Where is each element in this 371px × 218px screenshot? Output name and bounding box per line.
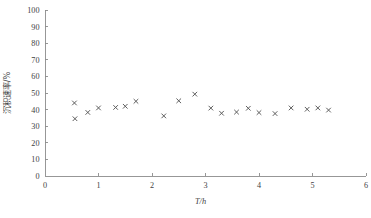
data-point — [96, 106, 101, 111]
y-axis-tick-label-20: 20 — [31, 139, 39, 148]
data-point — [316, 106, 321, 111]
data-point — [123, 104, 128, 109]
data-point — [86, 110, 91, 115]
x-axis-tick-label-4: 4 — [257, 181, 261, 190]
data-point — [134, 99, 139, 104]
y-axis-tick-label-30: 30 — [31, 122, 39, 131]
y-axis-tick-label-70: 70 — [31, 56, 39, 65]
y-axis-tick-label-100: 100 — [27, 6, 39, 15]
y-axis-tick-label-0: 0 — [35, 172, 39, 181]
y-axis-tick-label-50: 50 — [31, 89, 39, 98]
scatter-plot-svg: 0102030405060708090100 0123456 T/h沉积速率/% — [0, 0, 371, 218]
x-axis-title: T/h — [195, 197, 206, 206]
data-point-markers — [72, 92, 331, 121]
x-axis-tick-label-0: 0 — [43, 181, 47, 190]
x-axis-tick-label-3: 3 — [203, 181, 207, 190]
y-axis-tick-label-80: 80 — [31, 39, 39, 48]
y-axis-title: 沉积速率/% — [2, 72, 12, 115]
data-point — [209, 106, 214, 111]
data-point — [234, 110, 239, 115]
chart-figure: 0102030405060708090100 0123456 T/h沉积速率/% — [0, 0, 371, 218]
y-axis-tick-label-90: 90 — [31, 23, 39, 32]
data-point — [326, 108, 331, 113]
data-point — [72, 101, 77, 106]
data-point — [219, 111, 224, 116]
data-point — [176, 99, 181, 104]
y-axis-tick-label-40: 40 — [31, 106, 39, 115]
data-point — [246, 106, 251, 111]
data-point — [289, 106, 294, 111]
data-point — [273, 111, 278, 116]
data-point — [257, 110, 262, 115]
data-point — [305, 107, 310, 112]
x-axis: 0123456 — [43, 173, 368, 190]
y-axis-tick-label-60: 60 — [31, 72, 39, 81]
y-axis-tick-label-10: 10 — [31, 155, 39, 164]
x-axis-tick-label-5: 5 — [310, 181, 314, 190]
x-axis-tick-label-2: 2 — [150, 181, 154, 190]
data-point — [73, 116, 78, 121]
x-axis-tick-label-1: 1 — [96, 181, 100, 190]
data-point — [193, 92, 198, 97]
data-point — [161, 114, 166, 119]
data-point — [113, 105, 118, 110]
x-axis-tick-label-6: 6 — [364, 181, 368, 190]
y-axis: 0102030405060708090100 — [27, 6, 48, 181]
